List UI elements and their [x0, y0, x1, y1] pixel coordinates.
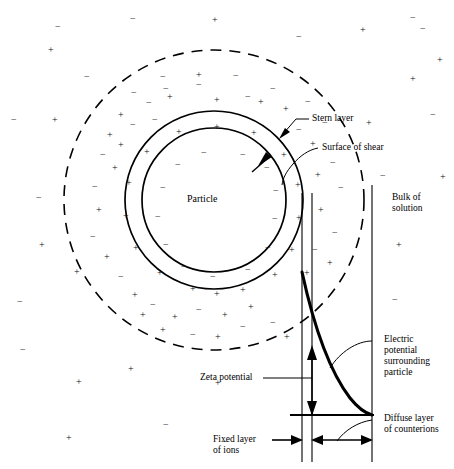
ion-negative-diffuse_layer: − [196, 80, 202, 90]
ion-positive-diffuse_layer: + [107, 130, 113, 140]
stern-layer-label: Stern layer [312, 113, 353, 124]
ion-negative-inside_particle: − [181, 262, 187, 272]
ion-positive-bulk_solution: + [366, 118, 372, 128]
ion-positive-stern_shell: + [296, 213, 302, 223]
bulk-of-solution-label-line1: Bulk of [392, 192, 421, 203]
ion-negative-inside_particle: − [175, 160, 181, 170]
ion-negative-diffuse_layer: − [146, 98, 152, 108]
ion-negative-bulk_solution: − [430, 110, 436, 120]
ion-positive-diffuse_layer: + [112, 163, 118, 173]
stern-layer-arrow-head [279, 128, 290, 139]
ion-positive-diffuse_layer: + [132, 290, 138, 300]
ion-negative-diffuse_layer: − [332, 228, 338, 238]
ion-negative-inside_particle: − [265, 243, 271, 253]
ion-negative-bulk_solution: − [20, 345, 26, 355]
diagram-canvas [0, 0, 454, 469]
ion-positive-stern_shell: + [176, 127, 182, 137]
ion-negative-diffuse_layer: − [118, 272, 124, 282]
ion-negative-diffuse_layer: − [152, 115, 158, 125]
double-layer-diagram: Particle Stern layer Surface of shear Bu… [0, 0, 454, 469]
ion-negative-diffuse_layer: − [196, 305, 202, 315]
ion-negative-inside_particle: − [155, 212, 161, 222]
ion-positive-diffuse_layer: + [167, 92, 173, 102]
ion-positive-stern_shell: + [126, 178, 132, 188]
ion-negative-diffuse_layer: − [330, 158, 336, 168]
ion-positive-diffuse_layer: + [172, 312, 178, 322]
ion-negative-bulk_solution: − [392, 295, 398, 305]
ion-negative-diffuse_layer: − [190, 330, 196, 340]
electric-potential-label-line4: particle [384, 367, 412, 378]
ion-negative-bulk_solution: − [130, 14, 136, 24]
ion-negative-inside_particle: − [201, 148, 207, 158]
ion-negative-diffuse_layer: − [296, 125, 302, 135]
ion-negative-diffuse_layer: − [270, 318, 276, 328]
ion-negative-diffuse_layer: − [130, 120, 136, 130]
ion-positive-stern_shell: + [240, 285, 246, 295]
surface-of-shear-label: Surface of shear [322, 142, 384, 153]
ion-negative-diffuse_layer: − [312, 245, 318, 255]
ion-positive-stern_shell: + [190, 284, 196, 294]
zeta-potential-label: Zeta potential [200, 372, 253, 383]
ion-negative-diffuse_layer: − [305, 97, 311, 107]
ion-negative-diffuse_layer: − [90, 232, 96, 242]
ion-negative-diffuse_layer: − [245, 92, 251, 102]
ion-positive-diffuse_layer: + [315, 170, 321, 180]
ion-negative-bulk_solution: − [296, 32, 302, 42]
zeta-arrow-down-head [307, 401, 317, 416]
ion-positive-bulk_solution: + [128, 364, 134, 374]
ion-positive-stern_shell: + [289, 245, 295, 255]
ion-negative-diffuse_layer: − [233, 71, 239, 81]
ion-negative-diffuse_layer: − [131, 88, 137, 98]
ion-negative-bulk_solution: − [163, 420, 169, 430]
ion-negative-diffuse_layer: − [160, 72, 166, 82]
ion-positive-bulk_solution: + [396, 240, 402, 250]
ion-negative-inside_particle: − [240, 150, 246, 160]
electric-potential-leader-line [330, 341, 372, 368]
ion-positive-diffuse_layer: + [284, 332, 290, 342]
ion-positive-diffuse_layer: + [310, 139, 316, 149]
ion-negative-diffuse_layer: − [150, 300, 156, 310]
ion-negative-diffuse_layer: − [240, 322, 246, 332]
ion-positive-diffuse_layer: + [214, 95, 220, 105]
electric-potential-label-line3: surrounding [384, 356, 430, 367]
ion-positive-bulk_solution: + [48, 45, 54, 55]
ion-positive-diffuse_layer: + [118, 110, 124, 120]
ion-positive-stern_shell: + [272, 270, 278, 280]
ion-positive-stern_shell: + [214, 122, 220, 132]
ion-positive-bulk_solution: + [437, 55, 443, 65]
ion-positive-bulk_solution: + [410, 74, 416, 84]
ion-negative-inside_particle: − [245, 265, 251, 275]
ion-negative-bulk_solution: − [36, 193, 42, 203]
ion-positive-bulk_solution: + [52, 115, 58, 125]
ion-positive-diffuse_layer: + [118, 140, 124, 150]
ion-negative-diffuse_layer: − [322, 118, 328, 128]
ion-negative-inside_particle: − [273, 186, 279, 196]
ion-positive-bulk_solution: + [212, 15, 218, 25]
zeta-arrow-up-head [307, 345, 317, 360]
ion-negative-bulk_solution: − [55, 22, 61, 32]
ion-positive-diffuse_layer: + [248, 302, 254, 312]
ion-negative-inside_particle: − [160, 183, 166, 193]
ion-positive-diffuse_layer: + [318, 205, 324, 215]
ion-negative-diffuse_layer: − [92, 182, 98, 192]
ion-negative-diffuse_layer: − [270, 84, 276, 94]
fixed-layer-arrow-head [291, 435, 303, 445]
ion-positive-diffuse_layer: + [258, 97, 264, 107]
ion-positive-stern_shell: + [251, 128, 257, 138]
ion-positive-diffuse_layer: + [304, 268, 310, 278]
ion-positive-stern_shell: + [214, 289, 220, 299]
ion-positive-stern_shell: + [281, 150, 287, 160]
ion-positive-stern_shell: + [123, 211, 129, 221]
ion-negative-bulk_solution: − [222, 437, 228, 447]
electric-potential-label-line1: Electric [384, 334, 414, 345]
ion-negative-bulk_solution: − [17, 297, 23, 307]
ion-positive-stern_shell: + [295, 180, 301, 190]
ion-negative-bulk_solution: − [380, 171, 386, 181]
particle-label: Particle [187, 194, 218, 205]
fixed-layer-label-line1: Fixed layer [213, 434, 256, 445]
electric-potential-label-line2: potential [384, 345, 417, 356]
ion-negative-bulk_solution: − [410, 13, 416, 23]
ion-negative-inside_particle: − [210, 272, 216, 282]
ion-positive-diffuse_layer: + [215, 332, 221, 342]
bulk-of-solution-label-line2: solution [392, 203, 423, 214]
